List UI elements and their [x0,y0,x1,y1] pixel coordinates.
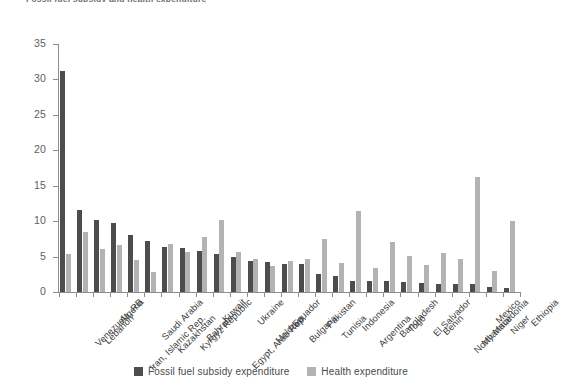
legend-label: Health expenditure [321,366,408,377]
bar-fossil-fuel-subsidy [504,288,509,292]
x-axis-tick-mark [281,292,282,297]
bar-health-expenditure [492,271,497,292]
x-axis-tick-mark [196,292,197,297]
y-axis-tick-mark [53,79,58,80]
x-axis-tick-mark [383,292,384,297]
x-axis-tick-label: Ukraine [256,297,286,327]
bar-health-expenditure [236,252,241,292]
x-axis-tick-mark [469,292,470,297]
bar-fossil-fuel-subsidy [350,281,355,292]
legend-swatch-icon [134,367,143,376]
bar-health-expenditure [424,265,429,292]
bar-health-expenditure [117,245,122,292]
bar-fossil-fuel-subsidy [470,284,475,292]
bar-group [418,44,435,292]
x-axis-tick-mark [127,292,128,297]
bar-group [435,44,452,292]
x-axis-tick-mark [264,292,265,297]
y-axis-tick-mark [53,221,58,222]
y-axis-tick-label: 5 [40,250,46,262]
legend-item[interactable]: Fossil fuel subsidy expenditure [134,366,289,377]
bar-health-expenditure [151,272,156,292]
x-axis-tick-mark [213,292,214,297]
bar-fossil-fuel-subsidy [282,264,287,292]
bar-fossil-fuel-subsidy [384,281,389,292]
bar-fossil-fuel-subsidy [453,284,458,293]
bar-fossil-fuel-subsidy [60,71,65,292]
bar-health-expenditure [83,232,88,292]
bar-health-expenditure [458,259,463,292]
bar-series-container [59,44,520,292]
x-axis-tick-label: Ecuador [290,297,322,329]
bar-fossil-fuel-subsidy [401,282,406,292]
bar-group [59,44,76,292]
bar-health-expenditure [100,249,105,292]
bar-health-expenditure [270,266,275,292]
bar-fossil-fuel-subsidy [299,264,304,292]
bar-fossil-fuel-subsidy [419,283,424,292]
bar-group [230,44,247,292]
bar-health-expenditure [339,263,344,292]
bar-health-expenditure [219,220,224,292]
bar-group [264,44,281,292]
bar-fossil-fuel-subsidy [487,287,492,292]
legend-item[interactable]: Health expenditure [307,366,408,377]
bar-group [452,44,469,292]
bar-health-expenditure [202,237,207,292]
bar-fossil-fuel-subsidy [145,241,150,292]
bar-group [503,44,520,292]
bar-group [196,44,213,292]
bar-group [400,44,417,292]
x-axis-tick-mark [76,292,77,297]
x-axis-tick-mark [298,292,299,297]
bar-group [161,44,178,292]
bar-group [76,44,93,292]
bar-group [332,44,349,292]
x-axis-tick-mark [110,292,111,297]
x-axis-tick-mark [503,292,504,297]
bar-health-expenditure [390,242,395,292]
bar-fossil-fuel-subsidy [248,261,253,292]
x-axis-tick-mark [93,292,94,297]
y-axis-tick-label: 35 [34,37,46,49]
bar-fossil-fuel-subsidy [367,281,372,292]
bar-group [469,44,486,292]
bar-fossil-fuel-subsidy [128,235,133,292]
bar-group [366,44,383,292]
y-axis-tick-mark [53,292,58,293]
bar-fossil-fuel-subsidy [436,284,441,293]
bar-health-expenditure [305,259,310,292]
chart-legend: Fossil fuel subsidy expenditureHealth ex… [0,366,542,377]
y-axis-tick-label: 15 [34,179,46,191]
bar-health-expenditure [356,211,361,292]
x-axis-tick-mark [366,292,367,297]
bar-fossil-fuel-subsidy [180,248,185,292]
bar-health-expenditure [66,254,71,292]
x-axis-tick-mark [179,292,180,297]
bar-health-expenditure [322,239,327,292]
x-axis-tick-mark [230,292,231,297]
bar-group [281,44,298,292]
y-axis-tick-mark [53,115,58,116]
x-axis-tick-mark [144,292,145,297]
bar-group [486,44,503,292]
bar-fossil-fuel-subsidy [316,274,321,292]
bar-health-expenditure [168,244,173,292]
bar-fossil-fuel-subsidy [231,257,236,292]
x-axis-tick-label: Ethiopia [529,297,560,328]
y-axis-tick-mark [53,186,58,187]
bar-group [110,44,127,292]
x-axis-tick-mark [452,292,453,297]
bar-health-expenditure [475,177,480,292]
legend-label: Fossil fuel subsidy expenditure [148,366,289,377]
y-axis-tick-mark [53,150,58,151]
bar-group [144,44,161,292]
bar-health-expenditure [510,221,515,292]
bar-health-expenditure [253,259,258,292]
bar-fossil-fuel-subsidy [265,262,270,292]
bar-group [127,44,144,292]
y-axis-tick-label: 30 [34,72,46,84]
x-axis-tick-mark [435,292,436,297]
bar-group [247,44,264,292]
bar-fossil-fuel-subsidy [162,247,167,292]
